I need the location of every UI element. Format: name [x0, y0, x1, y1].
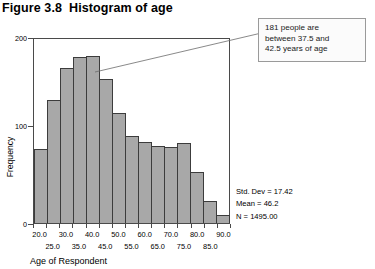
x-axis-ticks [33, 224, 230, 229]
x-tick-label-major: 60.0 [137, 230, 151, 239]
histogram-bar [99, 79, 113, 223]
x-tick-mark [125, 224, 126, 228]
histogram-bar [177, 143, 191, 223]
x-tick-label-major: 90.0 [216, 230, 230, 239]
x-tick-label-minor: 25.0 [45, 242, 59, 251]
summary-statistics: Std. Dev = 17.42 Mean = 46.2 N = 1495.00 [236, 186, 293, 223]
histogram-bar [34, 149, 48, 223]
x-tick-label-minor: 35.0 [72, 242, 86, 251]
x-axis-labels-minor: 25.035.045.055.065.075.085.0 [0, 242, 375, 254]
x-tick-mark [86, 224, 87, 228]
stat-n: N = 1495.00 [236, 211, 293, 223]
y-tick-label-0: 0 [23, 220, 27, 229]
x-tick-label-major: 20.0 [32, 230, 46, 239]
x-tick-label-major: 30.0 [59, 230, 73, 239]
x-tick-mark [33, 224, 34, 228]
x-tick-mark [59, 224, 60, 228]
histogram-bar [73, 57, 87, 223]
x-tick-label-minor: 65.0 [151, 242, 165, 251]
x-tick-label-minor: 85.0 [203, 242, 217, 251]
callout-box: 181 people are between 37.5 and 42.5 yea… [258, 18, 366, 62]
callout-line-3: 42.5 years of age [265, 44, 360, 55]
histogram-bar [151, 146, 165, 223]
x-tick-mark [191, 224, 192, 228]
x-tick-mark [99, 224, 100, 228]
x-axis-labels-major: 20.030.040.050.060.070.080.090.0 [0, 230, 375, 242]
histogram-bar [47, 100, 61, 223]
histogram-bar [216, 215, 230, 223]
y-axis-label: Frequency [5, 124, 15, 190]
x-tick-mark [164, 224, 165, 228]
stat-std-dev: Std. Dev = 17.42 [236, 186, 293, 198]
histogram-bars [34, 39, 229, 223]
x-tick-mark [138, 224, 139, 228]
plot-area [33, 38, 230, 224]
x-tick-label-minor: 55.0 [124, 242, 138, 251]
x-tick-label-major: 50.0 [111, 230, 125, 239]
x-tick-label-major: 40.0 [85, 230, 99, 239]
x-tick-mark [112, 224, 113, 228]
histogram-bar [125, 136, 139, 223]
callout-line-1: 181 people are [265, 23, 360, 34]
x-tick-mark [217, 224, 218, 228]
x-tick-label-major: 70.0 [164, 230, 178, 239]
figure-title-text: Histogram of age [69, 1, 173, 15]
x-tick-mark [46, 224, 47, 228]
figure-number: Figure 3.8 [2, 1, 62, 15]
histogram-bar [190, 172, 204, 223]
figure-title: Figure 3.8Histogram of age [2, 1, 173, 15]
x-tick-mark [230, 224, 231, 228]
histogram-bar [86, 56, 100, 223]
x-tick-mark [72, 224, 73, 228]
x-tick-mark [204, 224, 205, 228]
stat-mean: Mean = 46.2 [236, 198, 293, 210]
histogram-bar [203, 201, 217, 223]
x-tick-label-minor: 75.0 [177, 242, 191, 251]
histogram-bar [164, 147, 178, 223]
x-tick-mark [151, 224, 152, 228]
x-tick-mark [177, 224, 178, 228]
y-tick-label-100: 100 [15, 122, 27, 131]
x-axis-label: Age of Respondent [30, 256, 107, 266]
y-tick-label-200: 200 [15, 34, 27, 43]
x-tick-label-minor: 45.0 [98, 242, 112, 251]
histogram-bar [138, 142, 152, 223]
callout-line-2: between 37.5 and [265, 34, 360, 45]
histogram-bar [60, 68, 74, 223]
histogram-bar [112, 113, 126, 223]
x-tick-label-major: 80.0 [190, 230, 204, 239]
